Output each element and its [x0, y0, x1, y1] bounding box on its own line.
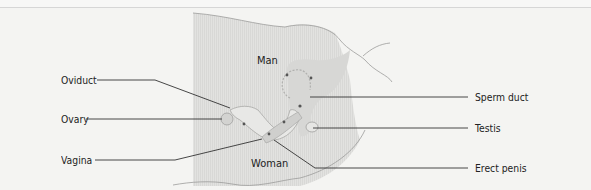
- ovary-shape: [221, 113, 233, 125]
- vagina-label: Vagina: [61, 154, 92, 166]
- ovary-label: Ovary: [61, 113, 89, 125]
- oviduct-label: Oviduct: [61, 74, 97, 86]
- man-thigh-outline: [363, 43, 390, 56]
- testis-shape: [306, 122, 318, 132]
- testis-label: Testis: [475, 122, 501, 134]
- woman-label: Woman: [251, 157, 288, 170]
- sperm-duct-label: Sperm duct: [475, 91, 528, 103]
- man-label: Man: [257, 54, 278, 67]
- erect-penis-label: Erect penis: [475, 162, 527, 174]
